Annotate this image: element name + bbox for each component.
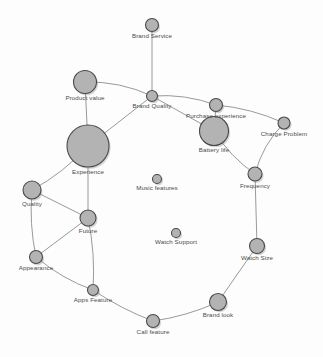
node-label-quality: Quality (22, 201, 42, 207)
edges-layer (31, 25, 284, 321)
node-label-watch_size: Watch Size (241, 255, 273, 261)
node-experience[interactable] (67, 125, 109, 167)
network-graph-canvas: Brand ServiceProduct valueBrand QualityP… (0, 0, 323, 357)
network-graph-svg (0, 0, 323, 357)
nodes-layer (23, 19, 292, 330)
node-brand_service[interactable] (146, 19, 159, 32)
node-battery_life[interactable] (200, 117, 229, 146)
node-label-battery_life: Battery life (199, 147, 229, 153)
node-quality[interactable] (23, 181, 41, 199)
node-apps_feature[interactable] (88, 285, 99, 296)
edge-appearance-to-future (36, 218, 88, 257)
node-appearance[interactable] (30, 251, 43, 264)
node-music_features[interactable] (153, 175, 162, 184)
node-call_feature[interactable] (147, 315, 160, 328)
node-label-charge_problem: Charge Problem (261, 131, 307, 137)
node-label-call_feature: Call feature (137, 329, 170, 335)
node-label-brand_service: Brand Service (132, 33, 172, 39)
node-label-music_features: Music features (136, 185, 178, 191)
node-product_value[interactable] (74, 71, 97, 94)
edge-apps_feature-to-appearance (36, 257, 93, 290)
node-label-watch_support: Watch Support (155, 239, 197, 245)
node-label-appearance: Appearance (19, 265, 53, 271)
node-purchase_experience[interactable] (210, 99, 223, 112)
node-charge_problem[interactable] (278, 117, 290, 129)
edge-call_feature-to-apps_feature (93, 290, 153, 321)
node-label-brand_look: Brand look (203, 312, 234, 318)
node-label-brand_quality: Brand Quality (133, 103, 172, 109)
node-label-purchase_experience: Purchase experience (186, 113, 246, 119)
node-watch_support[interactable] (172, 229, 181, 238)
node-future[interactable] (80, 210, 96, 226)
node-label-apps_feature: Apps Feature (74, 297, 112, 303)
node-brand_quality[interactable] (147, 91, 158, 102)
node-label-future: Future (79, 228, 97, 234)
node-label-product_value: Product value (65, 95, 104, 101)
node-brand_look[interactable] (210, 294, 227, 311)
node-frequency[interactable] (248, 167, 262, 181)
node-label-experience: Experience (72, 169, 104, 175)
node-label-frequency: Frequency (240, 183, 270, 189)
node-watch_size[interactable] (250, 239, 265, 254)
